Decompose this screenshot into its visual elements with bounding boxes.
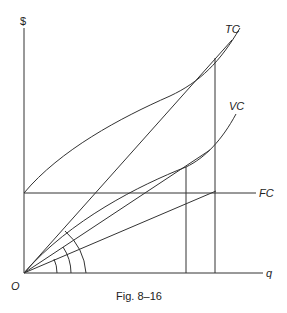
tc-curve	[24, 28, 240, 193]
origin-label: O	[11, 280, 20, 292]
fc-label: FC	[259, 187, 274, 199]
figure-caption: Fig. 8–16	[116, 290, 162, 302]
ray-to-fc	[24, 191, 216, 273]
tc-label: TC	[225, 23, 240, 35]
vc-label: VC	[229, 100, 244, 112]
angle-arc-small	[54, 259, 57, 273]
angle-arc-medium	[63, 247, 71, 273]
y-axis-label: $	[20, 15, 26, 27]
angle-arc-large	[65, 231, 86, 273]
cost-curves-diagram: $ q O TC VC FC Fig. 8–16	[0, 0, 287, 313]
x-axis-label: q	[266, 267, 273, 279]
